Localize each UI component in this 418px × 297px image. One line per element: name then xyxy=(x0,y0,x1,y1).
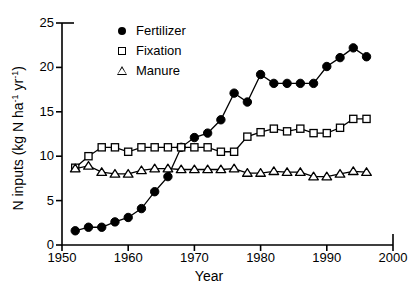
data-point xyxy=(256,70,264,78)
marker-filled-circle xyxy=(256,70,264,78)
data-point xyxy=(230,89,238,97)
legend-label: Fixation xyxy=(136,44,182,57)
marker-filled-circle xyxy=(270,79,278,87)
data-point xyxy=(191,144,198,151)
data-point xyxy=(203,165,213,173)
marker-open-square xyxy=(217,148,224,155)
series-manure xyxy=(70,162,371,180)
marker-filled-circle xyxy=(164,172,172,180)
marker-open-square xyxy=(98,144,105,151)
data-point xyxy=(297,125,304,132)
data-point xyxy=(98,144,105,151)
data-point xyxy=(178,144,185,151)
marker-open-square xyxy=(178,144,185,151)
data-point xyxy=(322,172,332,180)
marker-open-square xyxy=(310,130,317,137)
data-point xyxy=(270,125,277,132)
data-point xyxy=(137,204,145,212)
marker-open-square xyxy=(257,129,264,136)
marker-open-triangle xyxy=(190,165,200,173)
marker-filled-circle xyxy=(137,204,145,212)
data-point xyxy=(190,133,198,141)
data-point xyxy=(125,148,132,155)
marker-open-triangle xyxy=(348,167,358,175)
open-square-icon xyxy=(112,47,132,55)
data-point xyxy=(124,213,132,221)
legend-item-fertilizer: Fertilizer xyxy=(112,22,186,39)
marker-open-triangle xyxy=(243,169,253,177)
data-point xyxy=(269,167,279,175)
data-point xyxy=(335,170,345,178)
marker-filled-circle xyxy=(336,53,344,61)
data-point xyxy=(164,172,172,180)
data-point xyxy=(309,79,317,87)
data-point xyxy=(231,148,238,155)
x-tick-label: 1980 xyxy=(236,251,286,264)
marker-open-square xyxy=(151,144,158,151)
x-tick-label: 1990 xyxy=(302,251,352,264)
data-point xyxy=(151,144,158,151)
chart-legend: FertilizerFixationManure xyxy=(112,22,186,79)
marker-open-square xyxy=(244,133,251,140)
x-tick-label: 1970 xyxy=(169,251,219,264)
x-tick-label: 1960 xyxy=(103,251,153,264)
data-point xyxy=(323,130,330,137)
marker-open-triangle xyxy=(203,165,213,173)
x-axis-title: Year xyxy=(0,268,418,284)
data-point xyxy=(244,133,251,140)
series-fixation xyxy=(72,115,370,171)
legend-marker-shape xyxy=(117,66,127,75)
data-point xyxy=(84,162,94,170)
data-point xyxy=(323,62,331,70)
marker-filled-circle xyxy=(111,218,119,226)
data-point xyxy=(123,170,133,178)
marker-open-triangle xyxy=(256,169,266,177)
marker-filled-circle xyxy=(124,213,132,221)
marker-filled-circle xyxy=(203,129,211,137)
marker-open-square xyxy=(270,125,277,132)
data-point xyxy=(243,169,253,177)
data-point xyxy=(163,164,173,172)
data-point xyxy=(84,223,92,231)
marker-open-triangle xyxy=(84,162,94,170)
marker-open-triangle xyxy=(137,166,147,174)
x-tick-label: 1950 xyxy=(37,251,87,264)
marker-open-triangle xyxy=(362,168,372,176)
data-point xyxy=(362,53,370,61)
data-point xyxy=(350,115,357,122)
marker-open-triangle xyxy=(163,164,173,172)
marker-open-square xyxy=(85,153,92,160)
data-point xyxy=(283,128,290,135)
marker-open-triangle xyxy=(70,164,80,172)
marker-open-square xyxy=(336,124,343,131)
data-point xyxy=(270,79,278,87)
x-tick-label: 2000 xyxy=(368,251,418,264)
data-point xyxy=(309,172,319,180)
data-point xyxy=(348,167,358,175)
data-point xyxy=(363,115,370,122)
data-point xyxy=(296,168,306,176)
data-point xyxy=(362,168,372,176)
open-triangle-icon xyxy=(112,66,132,75)
data-point xyxy=(137,166,147,174)
data-point xyxy=(177,143,185,151)
marker-open-square xyxy=(125,148,132,155)
marker-open-square xyxy=(283,128,290,135)
data-point xyxy=(190,165,200,173)
marker-filled-circle xyxy=(323,62,331,70)
marker-filled-circle xyxy=(283,79,291,87)
legend-item-manure: Manure xyxy=(112,62,186,79)
data-point xyxy=(256,169,266,177)
marker-filled-circle xyxy=(362,53,370,61)
data-point xyxy=(71,227,79,235)
marker-open-triangle xyxy=(123,170,133,178)
data-point xyxy=(310,130,317,137)
legend-marker-shape xyxy=(118,27,126,35)
marker-filled-circle xyxy=(190,133,198,141)
data-point xyxy=(203,129,211,137)
marker-filled-circle xyxy=(349,44,357,52)
marker-open-triangle xyxy=(97,168,107,176)
marker-filled-circle xyxy=(296,79,304,87)
marker-open-square xyxy=(363,115,370,122)
marker-filled-circle xyxy=(217,116,225,124)
